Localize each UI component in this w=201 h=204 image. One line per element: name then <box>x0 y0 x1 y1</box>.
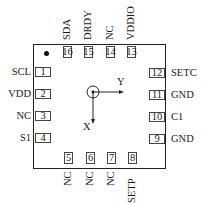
x-axis-label: X <box>83 122 91 133</box>
y-axis-arrow-icon <box>119 90 124 94</box>
y-axis-label: Y <box>117 77 125 88</box>
x-axis-arrow-icon <box>91 119 95 124</box>
axis-symbol <box>0 0 201 204</box>
